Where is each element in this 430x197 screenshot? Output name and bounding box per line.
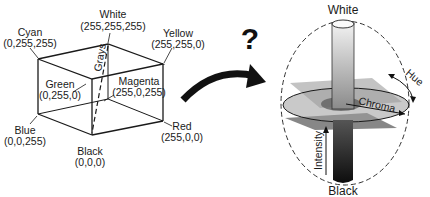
cube-edge <box>38 114 92 135</box>
curved-arrow-icon <box>183 64 266 100</box>
label-yellow-value: (255,255,0) <box>151 38 205 50</box>
label-black-value: (0,0,0) <box>75 156 105 168</box>
label-blue-value: (0,0,255) <box>4 135 46 147</box>
leader-cyan <box>30 48 38 58</box>
label-intensity: Intensity <box>312 130 324 170</box>
cylinder-upper <box>332 23 354 109</box>
cube-edge <box>92 121 163 135</box>
cube-edge-back <box>108 99 163 121</box>
cylinder-lower <box>333 120 353 183</box>
label-cyan-value: (0,255,255) <box>3 37 57 49</box>
label-red-value: (255,0,0) <box>161 131 203 143</box>
hsi-model: Chroma Hue Intensity White Black <box>281 3 426 197</box>
label-green-value: (0,255,0) <box>39 89 81 101</box>
diagram-canvas: White (255,255,255) Cyan (0,255,255) Yel… <box>0 0 430 197</box>
question-mark: ? <box>241 22 259 55</box>
label-top-white: White <box>328 3 359 17</box>
leader-white <box>108 33 110 43</box>
leader-red <box>164 122 172 126</box>
cube-labels: White (255,255,255) Cyan (0,255,255) Yel… <box>3 8 205 168</box>
leader-blue <box>30 116 37 124</box>
label-bottom-black: Black <box>328 184 358 197</box>
label-white-value: (255,255,255) <box>80 20 145 32</box>
cylinder-top-cap <box>332 20 354 28</box>
label-magenta-value: (255,0,255) <box>112 86 166 98</box>
leader-yellow <box>164 48 172 63</box>
label-white-name: White <box>100 8 127 20</box>
